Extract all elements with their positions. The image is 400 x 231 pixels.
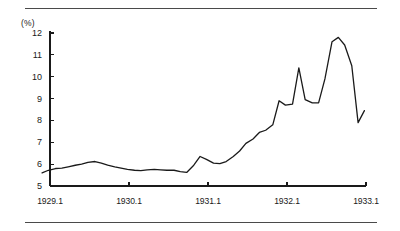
y-axis-tick-label: 10: [24, 72, 42, 82]
x-axis-tick-label: 1929.1: [37, 196, 63, 206]
x-axis-tick-label: 1930.1: [116, 196, 142, 206]
chart-figure: (%) 56789101112 1929.11930.11931.11932.1…: [0, 0, 400, 231]
y-axis-tick-label: 6: [24, 159, 42, 169]
y-axis-tick-label: 5: [24, 181, 42, 191]
data-series-line: [42, 37, 364, 173]
x-axis-tick-label: 1933.1: [353, 196, 379, 206]
y-axis-tick-label: 11: [24, 50, 42, 60]
y-axis-tick-label: 9: [24, 94, 42, 104]
y-axis-tick-label: 12: [24, 28, 42, 38]
y-axis-tick-label: 7: [24, 137, 42, 147]
x-axis-tick-label: 1931.1: [195, 196, 221, 206]
x-axis-tick-label: 1932.1: [274, 196, 300, 206]
y-axis-tick-label: 8: [24, 115, 42, 125]
